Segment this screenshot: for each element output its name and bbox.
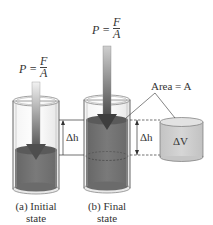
delta-v-label: ΔV bbox=[173, 135, 188, 147]
bulk-compression-diagram: P = F A P = F A Δh Δh Area = A ΔV (a) In… bbox=[0, 0, 213, 225]
caption-final-line2: state bbox=[77, 212, 137, 224]
area-label: Area = A bbox=[151, 80, 191, 92]
pressure-fraction-a: F A bbox=[40, 56, 47, 79]
delta-h-label-left: Δh bbox=[66, 131, 79, 143]
delta-h-label-right: Δh bbox=[140, 131, 153, 143]
caption-initial-state: (a) Initial state bbox=[4, 200, 68, 224]
pressure-label-a-lhs: P = bbox=[19, 62, 37, 77]
force-arrow-final bbox=[97, 46, 117, 130]
caption-initial-line2: state bbox=[4, 212, 68, 224]
caption-final-state: (b) Final state bbox=[77, 200, 137, 224]
pressure-fraction-b: F A bbox=[113, 17, 120, 40]
caption-initial-line1: (a) Initial bbox=[4, 200, 68, 212]
pressure-label-b-lhs: P = bbox=[92, 23, 110, 38]
fraction-denominator: A bbox=[113, 29, 120, 40]
area-pointer-lines bbox=[126, 93, 175, 118]
caption-final-line1: (b) Final bbox=[77, 200, 137, 212]
fraction-denominator: A bbox=[40, 68, 47, 79]
